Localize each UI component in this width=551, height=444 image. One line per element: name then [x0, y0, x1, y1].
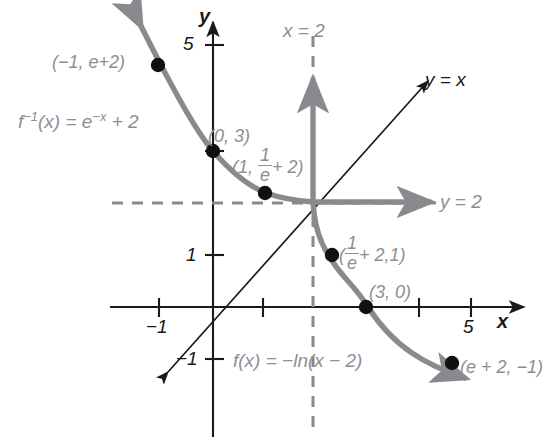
y-axis-label: y	[199, 6, 210, 26]
line-y-equals-x	[168, 81, 428, 372]
point-dot-invE2-1	[325, 248, 339, 262]
point-label-neg1-e2: (−1, e+2)	[52, 53, 125, 71]
fraction-one-over-e: 1e	[345, 234, 359, 273]
x-tick-label-neg1: −1	[146, 317, 168, 336]
point-label-3-0: (3, 0)	[369, 283, 411, 301]
point-label-e-plus-2-neg1: (e + 2, −1)	[460, 358, 543, 376]
y-tick-label-5: 5	[183, 34, 194, 53]
y-tick-label-neg1: −1	[176, 349, 198, 368]
point-dot-1-invE-2	[258, 186, 272, 200]
y-tick-label-1: 1	[186, 245, 197, 264]
equation-tail: + 2	[112, 111, 139, 132]
function-equation: f(x) = −ln(x − 2)	[233, 351, 362, 370]
point-label-close: + 2,1)	[359, 245, 406, 265]
point-label-1-invE-plus-2: (1, 1e+ 2)	[232, 146, 304, 185]
point-dot-neg1-e2	[151, 58, 165, 72]
fraction-one-over-e: 1e	[258, 146, 272, 185]
equation-superscript-neg1: −1	[23, 109, 38, 124]
inverse-function-equation: f−1(x) = e−x + 2	[18, 111, 139, 131]
asymptote-label-x-equals-2: x = 2	[283, 21, 325, 40]
point-label-close: + 2)	[272, 157, 304, 177]
x-tick-label-5: 5	[463, 317, 474, 336]
point-label-0-3: (0, 3)	[208, 127, 250, 145]
asymptote-label-y-equals-2: y = 2	[440, 192, 482, 211]
point-label-invE-plus-2-comma-1: (1e+ 2,1)	[339, 234, 406, 273]
x-axis-label: x	[497, 311, 508, 331]
point-dot-e2-neg1	[445, 356, 459, 370]
graph-canvas: y x 5 1 −1 −1 5 x = 2 y = 2 y = x (−1, e…	[0, 0, 551, 444]
equation-exponent-negx: −x	[92, 109, 106, 124]
equation-body: (x) = e	[38, 111, 92, 132]
line-label-y-equals-x: y = x	[425, 70, 466, 89]
point-label-open: (1,	[232, 157, 258, 177]
